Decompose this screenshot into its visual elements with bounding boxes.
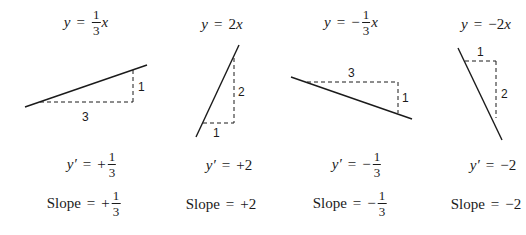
equals-sign: =: [226, 196, 234, 213]
rise-label: 2: [501, 87, 508, 101]
slope-panel-1: Slope = + 1 3: [47, 189, 122, 218]
fraction: 1 3: [373, 150, 382, 179]
slope-value: +2: [240, 196, 256, 213]
rise-label: 1: [402, 91, 409, 105]
equals-sign: =: [491, 196, 499, 213]
run-label: 3: [348, 66, 355, 80]
derivative-lhs: y′: [67, 156, 77, 173]
denominator: 3: [379, 204, 386, 218]
sign: +: [97, 156, 105, 173]
equals-sign: =: [353, 195, 361, 212]
triangle-panel-1: 1 3: [25, 65, 147, 124]
derivative-panel-4: y′ = −2: [470, 157, 516, 174]
slope-label: Slope: [186, 196, 220, 213]
run-label: 1: [477, 45, 484, 59]
slope-value: −2: [505, 196, 521, 213]
slope-panel-3: Slope = − 1 3: [313, 189, 388, 218]
derivative-lhs: y′: [332, 156, 342, 173]
numerator: 1: [378, 189, 387, 204]
derivative-panel-1: y′ = + 1 3: [67, 150, 117, 179]
line-y-third-x: [25, 65, 147, 107]
triangle-panel-4: 2 1: [458, 45, 508, 140]
rise-label: 2: [238, 85, 245, 99]
denominator: 3: [374, 165, 381, 179]
denominator: 3: [113, 204, 120, 218]
slope-label: Slope: [313, 195, 347, 212]
triangle-panel-3: 1 3: [291, 66, 412, 119]
equals-sign: =: [348, 156, 356, 173]
slope-label: Slope: [47, 195, 81, 212]
slope-label: Slope: [451, 196, 485, 213]
derivative-panel-2: y′ = +2: [206, 157, 252, 174]
fraction: 1 3: [378, 189, 387, 218]
denominator: 3: [109, 165, 116, 179]
line-y-neg-third-x: [291, 77, 412, 119]
numerator: 1: [112, 189, 121, 204]
equals-sign: =: [222, 157, 230, 174]
derivative-value: −2: [500, 157, 516, 174]
sign: +: [101, 195, 109, 212]
fraction: 1 3: [108, 150, 117, 179]
run-label: 1: [213, 126, 220, 140]
fraction: 1 3: [112, 189, 121, 218]
derivative-lhs: y′: [470, 157, 480, 174]
run-label: 3: [82, 110, 89, 124]
equals-sign: =: [486, 157, 494, 174]
slope-panel-4: Slope = −2: [451, 196, 522, 213]
derivative-panel-3: y′ = − 1 3: [332, 150, 382, 179]
numerator: 1: [373, 150, 382, 165]
rise-label: 1: [138, 80, 145, 94]
line-y-neg-2x: [458, 48, 502, 140]
sign: −: [362, 156, 370, 173]
slope-panel-2: Slope = +2: [186, 196, 257, 213]
triangle-panel-2: 2 1: [196, 45, 245, 140]
numerator: 1: [108, 150, 117, 165]
derivative-value: +2: [236, 157, 252, 174]
equals-sign: =: [87, 195, 95, 212]
slope-diagram: y = 1 3 x y = 2 x y = − 1 3 x y = −2 x: [0, 0, 526, 235]
derivative-lhs: y′: [206, 157, 216, 174]
equals-sign: =: [83, 156, 91, 173]
sign: −: [367, 195, 375, 212]
